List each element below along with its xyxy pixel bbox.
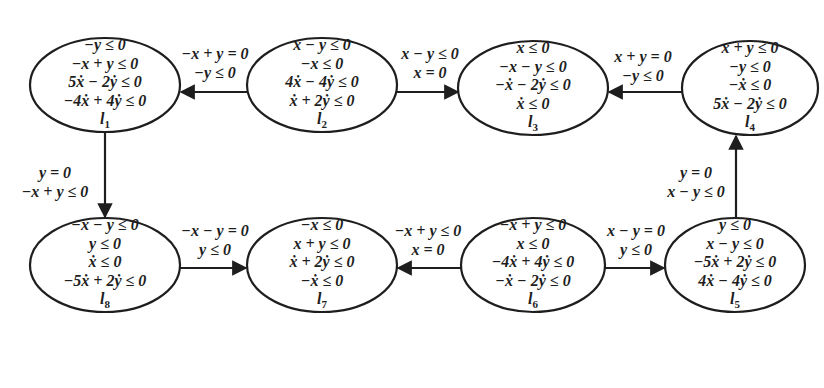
node-l2-constraint-2: −x ≤ 0 (285, 55, 359, 74)
node-l1: −y ≤ 0 −x + y ≤ 0 5ẋ − 2ẏ ≤ 0 −4ẋ + 4ẏ ≤… (64, 36, 147, 134)
node-l4-constraint-3: −ẋ ≤ 0 (713, 76, 787, 95)
node-l5-constraint-1: y ≤ 0 (694, 216, 777, 235)
edge-l4-l3-guard: x + y = 0 −y ≤ 0 (614, 47, 671, 85)
guard-line: −x + y ≤ 0 (395, 221, 462, 240)
guard-line: −x + y = 0 (181, 44, 248, 63)
node-l2-constraint-3: 4ẋ − 4ẏ ≤ 0 (285, 73, 359, 92)
edge-l5-l4-guard: y = 0 x − y ≤ 0 (667, 163, 725, 201)
guard-line: −y ≤ 0 (181, 63, 248, 82)
node-l8-constraint-2: y ≤ 0 (64, 235, 147, 254)
node-l6-constraint-1: −x + y ≤ 0 (492, 216, 575, 235)
guard-line: y ≤ 0 (181, 240, 249, 259)
node-l2-constraint-4: ẋ + 2ẏ ≤ 0 (285, 92, 359, 111)
node-l7-constraint-4: −ẋ ≤ 0 (290, 272, 355, 291)
node-l1-constraint-2: −x + y ≤ 0 (64, 55, 147, 74)
guard-line: x − y ≤ 0 (401, 44, 459, 63)
node-l3-constraint-1: x ≤ 0 (495, 39, 570, 58)
guard-line: x + y = 0 (614, 47, 671, 66)
node-l1-constraint-4: −4ẋ + 4ẏ ≤ 0 (64, 92, 147, 111)
guard-line: y = 0 (667, 163, 725, 182)
guard-line: y = 0 (22, 163, 89, 182)
node-l3-constraint-3: −ẋ − 2ẏ ≤ 0 (495, 76, 570, 95)
node-l7-constraint-1: −x ≤ 0 (290, 216, 355, 235)
node-l6-location-label: l6 (492, 290, 575, 314)
node-l4-constraint-4: 5ẋ − 2ẏ ≤ 0 (713, 95, 787, 114)
node-l7-constraint-3: ẋ + 2ẏ ≤ 0 (290, 253, 355, 272)
node-l8-constraint-3: ẋ ≤ 0 (64, 253, 147, 272)
node-l4: x + y ≤ 0 −y ≤ 0 −ẋ ≤ 0 5ẋ − 2ẏ ≤ 0 l4 (713, 39, 787, 137)
guard-line: x − y ≤ 0 (667, 182, 725, 201)
node-l8-constraint-1: −x − y ≤ 0 (64, 216, 147, 235)
guard-line: −x + y ≤ 0 (22, 182, 89, 201)
node-l3-constraint-2: −x − y ≤ 0 (495, 58, 570, 77)
node-l7-location-label: l7 (290, 290, 355, 314)
node-l1-constraint-1: −y ≤ 0 (64, 36, 147, 55)
node-l3: x ≤ 0 −x − y ≤ 0 −ẋ − 2ẏ ≤ 0 ẋ ≤ 0 l3 (495, 39, 570, 137)
guard-line: x = 0 (401, 63, 459, 82)
node-l7-constraint-2: x + y ≤ 0 (290, 235, 355, 254)
node-l6-constraint-2: x ≤ 0 (492, 235, 575, 254)
node-l8-location-label: l8 (64, 290, 147, 314)
node-l5-constraint-2: x − y ≤ 0 (694, 235, 777, 254)
node-l5-constraint-3: −5ẋ + 2ẏ ≤ 0 (694, 253, 777, 272)
edge-l6-l7-guard: −x + y ≤ 0 x = 0 (395, 221, 462, 259)
node-l7: −x ≤ 0 x + y ≤ 0 ẋ + 2ẏ ≤ 0 −ẋ ≤ 0 l7 (290, 216, 355, 314)
edge-l2-l1-guard: −x + y = 0 −y ≤ 0 (181, 44, 248, 82)
edge-l6-l5-guard: x − y = 0 y ≤ 0 (607, 221, 665, 259)
node-l5-constraint-4: 4ẋ − 4ẏ ≤ 0 (694, 272, 777, 291)
node-l1-constraint-3: 5ẋ − 2ẏ ≤ 0 (64, 73, 147, 92)
edge-l8-l7-guard: −x − y = 0 y ≤ 0 (181, 221, 249, 259)
node-l1-location-label: l1 (64, 110, 147, 134)
node-l4-location-label: l4 (713, 113, 787, 137)
node-l5: y ≤ 0 x − y ≤ 0 −5ẋ + 2ẏ ≤ 0 4ẋ − 4ẏ ≤ 0… (694, 216, 777, 314)
node-l8: −x − y ≤ 0 y ≤ 0 ẋ ≤ 0 −5ẋ + 2ẏ ≤ 0 l8 (64, 216, 147, 314)
node-l3-location-label: l3 (495, 113, 570, 137)
guard-line: x − y = 0 (607, 221, 665, 240)
node-l2: x − y ≤ 0 −x ≤ 0 4ẋ − 4ẏ ≤ 0 ẋ + 2ẏ ≤ 0 … (285, 36, 359, 134)
guard-line: x = 0 (395, 240, 462, 259)
node-l4-constraint-2: −y ≤ 0 (713, 58, 787, 77)
edge-l2-l3-guard: x − y ≤ 0 x = 0 (401, 44, 459, 82)
node-l5-location-label: l5 (694, 290, 777, 314)
node-l2-constraint-1: x − y ≤ 0 (285, 36, 359, 55)
node-l6-constraint-3: −4ẋ + 4ẏ ≤ 0 (492, 253, 575, 272)
node-l6-constraint-4: −ẋ − 2ẏ ≤ 0 (492, 272, 575, 291)
node-l3-constraint-4: ẋ ≤ 0 (495, 95, 570, 114)
guard-line: −y ≤ 0 (614, 66, 671, 85)
node-l6: −x + y ≤ 0 x ≤ 0 −4ẋ + 4ẏ ≤ 0 −ẋ − 2ẏ ≤ … (492, 216, 575, 314)
node-l4-constraint-1: x + y ≤ 0 (713, 39, 787, 58)
node-l2-location-label: l2 (285, 110, 359, 134)
node-l8-constraint-4: −5ẋ + 2ẏ ≤ 0 (64, 272, 147, 291)
guard-line: y ≤ 0 (607, 240, 665, 259)
edge-l1-l8-guard: y = 0 −x + y ≤ 0 (22, 163, 89, 201)
guard-line: −x − y = 0 (181, 221, 249, 240)
